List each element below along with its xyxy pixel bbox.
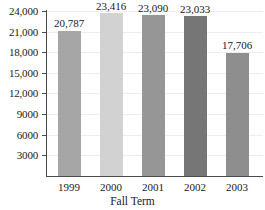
y-tick-3000 [42,155,47,156]
y-tick-9000 [42,114,47,115]
y-tick-label-15000: 15,000 [9,68,38,79]
y-tick-label-6000: 6000 [17,130,38,141]
y-tick-label-18000: 18,000 [9,47,38,58]
y-tick-6000 [42,135,47,136]
bar-2000 [100,13,123,176]
bar-chart: 20,787 23,416 23,090 23,033 17,706 24,00… [0,0,265,210]
bar-value-1999: 20,787 [39,18,99,29]
y-tick-15000 [42,73,47,74]
bar-2001 [142,15,165,176]
y-tick-21000 [42,32,47,33]
x-axis-line [46,176,263,177]
y-tick-label-21000: 21,000 [9,27,38,38]
bar-2003 [226,53,249,176]
y-tick-label-24000: 24,000 [9,6,38,17]
x-axis-title: Fall Term [0,195,265,207]
y-tick-label-9000: 9000 [17,109,38,120]
y-tick-12000 [42,93,47,94]
bar-2002 [184,16,207,176]
bar-1999 [58,31,81,176]
x-tick-label-2003: 2003 [207,181,265,193]
y-tick-24000 [42,11,47,12]
y-tick-label-12000: 12,000 [9,88,38,99]
bar-value-2003: 17,706 [207,40,265,51]
y-tick-label-3000: 3000 [17,150,38,161]
bar-value-2002: 23,033 [165,4,225,15]
y-tick-18000 [42,52,47,53]
